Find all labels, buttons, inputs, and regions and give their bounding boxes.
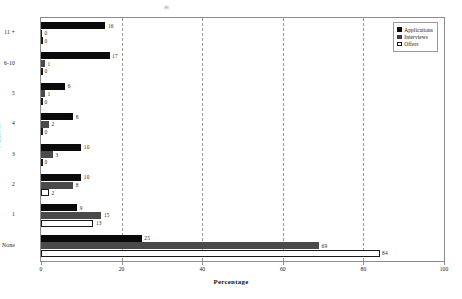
y-axis-category-label: 5 (0, 90, 15, 96)
bar-group: 91513 (41, 204, 444, 226)
x-tick-label-0: 0 (40, 266, 43, 272)
bar-value-label: 10 (81, 174, 89, 180)
bar-group: 1082 (41, 174, 444, 196)
x-tick-label-100: 100 (440, 266, 448, 272)
bar-applications (41, 174, 81, 181)
bar-value-label: 69 (319, 243, 327, 249)
bar-applications (41, 113, 73, 120)
bar-applications (41, 22, 105, 29)
bar-group: 1600 (41, 22, 444, 44)
bar-value-label: 15 (101, 212, 109, 218)
bar-offers (41, 250, 380, 257)
bar-value-label: 6 (65, 83, 70, 89)
bar-value-label: 8 (73, 182, 78, 188)
bar-offers (41, 189, 49, 196)
bar-value-label: 1 (45, 61, 50, 67)
bar-value-label: 0 (42, 159, 47, 165)
bar-applications (41, 52, 110, 59)
bar-value-label: 1 (45, 91, 50, 97)
bar-group: 610 (41, 83, 444, 105)
bar-value-label: 0 (42, 68, 47, 74)
bar-value-label: 10 (81, 144, 89, 150)
x-tick-label-80: 80 (361, 266, 367, 272)
bar-value-label: 16 (105, 23, 113, 29)
y-axis-title: Number (0, 123, 1, 148)
y-axis-category-label: 2 (0, 181, 15, 187)
x-axis-title: Percentage (0, 278, 462, 285)
bar-value-label: 0 (42, 129, 47, 135)
chart-figure: Number Percentage Applications Interview… (0, 0, 462, 299)
image-artifact-dot (163, 5, 170, 10)
x-tick-mark-20 (122, 262, 123, 265)
bar-value-label: 84 (380, 250, 388, 256)
plot-area: Applications Interviews Offers 160017106… (40, 17, 445, 262)
bar-value-label: 17 (110, 53, 118, 59)
bar-value-label: 25 (142, 235, 150, 241)
y-axis-category-label: 11 + (0, 29, 15, 35)
y-axis-category-label: 6-10 (0, 60, 15, 66)
bar-value-label: 8 (73, 114, 78, 120)
bar-interviews (41, 121, 49, 128)
bar-value-label: 0 (42, 99, 47, 105)
bar-group: 1710 (41, 52, 444, 74)
bar-group: 820 (41, 113, 444, 135)
y-axis-category-label: 4 (0, 120, 15, 126)
x-tick-label-60: 60 (280, 266, 286, 272)
bar-value-label: 13 (93, 220, 101, 226)
y-axis-category-label: None (0, 242, 15, 248)
bar-applications (41, 204, 77, 211)
bar-applications (41, 144, 81, 151)
bar-applications (41, 235, 142, 242)
bar-interviews (41, 182, 73, 189)
bar-interviews (41, 151, 53, 158)
bar-value-label: 2 (49, 121, 54, 127)
x-tick-mark-100 (444, 262, 445, 265)
bar-value-label: 9 (77, 205, 82, 211)
x-tick-mark-60 (283, 262, 284, 265)
x-tick-label-20: 20 (119, 266, 125, 272)
bar-group: 1030 (41, 144, 444, 166)
bar-value-label: 0 (42, 30, 47, 36)
x-tick-mark-40 (202, 262, 203, 265)
bar-interviews (41, 242, 319, 249)
x-tick-label-40: 40 (199, 266, 205, 272)
bar-value-label: 2 (49, 190, 54, 196)
x-tick-mark-80 (363, 262, 364, 265)
x-tick-mark-0 (41, 262, 42, 265)
y-axis-category-label: 1 (0, 211, 15, 217)
bar-applications (41, 83, 65, 90)
bar-group: 256984 (41, 235, 444, 257)
bar-value-label: 0 (42, 38, 47, 44)
bar-offers (41, 220, 93, 227)
bar-value-label: 3 (53, 152, 58, 158)
y-axis-category-label: 3 (0, 151, 15, 157)
bar-interviews (41, 212, 101, 219)
